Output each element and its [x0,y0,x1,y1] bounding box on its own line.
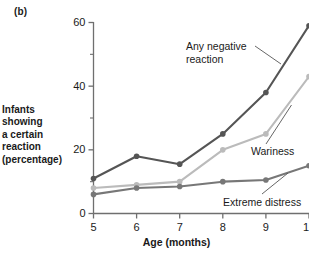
annotation-any-negative-line-1: Any negative [186,40,247,53]
annotation-leader-lines [255,46,292,194]
annotation-any-negative-line-2: reaction [186,53,247,66]
annotation-wariness: Wariness [251,145,294,158]
figure-panel-b: (b) Infants showing a certain reaction (… [0,0,309,259]
plot-area [0,0,309,259]
annotation-extreme-distress: Extreme distress [223,196,301,209]
annotation-any-negative-reaction: Any negative reaction [186,40,247,65]
